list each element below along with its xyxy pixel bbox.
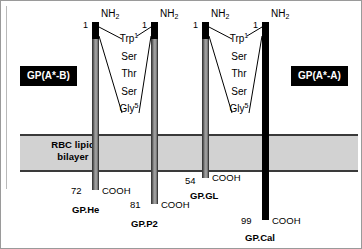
gpgl-n-terminal-number: 1: [193, 20, 198, 30]
n-terminal-connector-lines: [0, 0, 362, 249]
protein-bar-gphe-stem: [92, 39, 99, 190]
protein-bar-gphe-nterm-cap: [92, 22, 99, 39]
gphe-n-terminal-number: 1: [83, 20, 88, 30]
protein-name-gpgl: GP.GL: [190, 190, 218, 201]
protein-bar-gpcal-stem: [262, 39, 269, 220]
protein-bar-gpp2: [151, 22, 158, 204]
chip-label-right: GP(A*-A): [291, 66, 348, 86]
glycophorin-membrane-diagram: RBC lipid bilayer 1 NH2 72 COOH GP.He 1 …: [0, 0, 362, 249]
protein-name-gpp2: GP.P2: [131, 218, 158, 229]
gpcal-c-terminal-number: 99: [241, 215, 252, 226]
gpp2-cooh-label: COOH: [161, 199, 190, 210]
protein-name-gpcal: GP.Cal: [245, 232, 275, 243]
residue-item: Gly5: [107, 97, 151, 115]
residue-item: Gly5: [217, 97, 261, 115]
left-rule: [6, 6, 7, 189]
chip-label-left: GP(A*-B): [20, 66, 77, 86]
protein-bar-gpgl-stem: [202, 39, 209, 178]
residue-item: Ser: [217, 80, 261, 98]
gphe-nh2-label: NH2: [101, 8, 119, 20]
gphe-c-terminal-number: 72: [71, 185, 82, 196]
membrane-label-line2: bilayer: [34, 151, 112, 163]
gpcal-nh2-label: NH2: [271, 8, 289, 20]
protein-bar-gpcal: [262, 22, 269, 220]
residue-item: Trp1: [107, 27, 151, 45]
right-sequence: Trp1 Ser Thr Ser Gly5: [217, 27, 261, 115]
protein-bar-gpgl: [202, 22, 209, 178]
residue-item: Thr: [107, 62, 151, 80]
residue-item: Ser: [107, 80, 151, 98]
gphe-cooh-label: COOH: [102, 185, 131, 196]
figure-border: [0, 0, 362, 249]
residue-item: Ser: [217, 45, 261, 63]
gpp2-nh2-label: NH2: [160, 8, 178, 20]
protein-bar-gpp2-stem: [151, 39, 158, 204]
protein-name-gphe: GP.He: [72, 204, 99, 215]
protein-bar-gpcal-nterm-cap: [262, 22, 269, 39]
membrane-label-line1: RBC lipid: [34, 139, 112, 151]
protein-bar-gpgl-nterm-cap: [202, 22, 209, 39]
residue-item: Ser: [107, 45, 151, 63]
gpgl-c-terminal-number: 54: [185, 175, 196, 186]
membrane-label: RBC lipid bilayer: [34, 139, 112, 163]
protein-bar-gpp2-nterm-cap: [151, 22, 158, 39]
left-sequence: Trp1 Ser Thr Ser Gly5: [107, 27, 151, 115]
protein-bar-gphe: [92, 22, 99, 190]
gpp2-c-terminal-number: 81: [130, 199, 141, 210]
residue-item: Trp1: [217, 27, 261, 45]
gpcal-cooh-label: COOH: [272, 215, 301, 226]
gpgl-nh2-label: NH2: [211, 8, 229, 20]
residue-item: Thr: [217, 62, 261, 80]
gpgl-cooh-label: COOH: [212, 172, 241, 183]
